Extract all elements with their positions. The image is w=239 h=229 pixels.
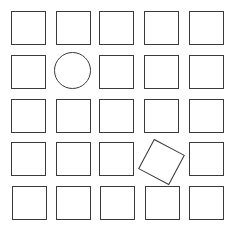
- shape-grid: [0, 0, 239, 229]
- square-shape: [11, 55, 46, 89]
- square-shape: [189, 99, 224, 133]
- square-shape: [99, 11, 134, 45]
- square-shape: [56, 142, 91, 176]
- square-shape: [11, 99, 46, 133]
- square-shape: [11, 142, 46, 176]
- square-shape: [56, 186, 91, 220]
- square-shape: [189, 186, 224, 220]
- circle-shape: [54, 52, 91, 89]
- square-shape: [99, 99, 134, 133]
- square-shape: [189, 11, 224, 45]
- square-shape: [99, 55, 134, 89]
- square-shape: [144, 11, 179, 45]
- square-shape: [189, 142, 224, 176]
- square-shape: [56, 99, 91, 133]
- square-shape: [99, 142, 134, 176]
- square-shape: [189, 55, 224, 89]
- square-shape: [11, 11, 46, 45]
- square-shape: [144, 99, 179, 133]
- square-shape: [100, 186, 135, 220]
- square-shape: [56, 11, 91, 45]
- square-shape: [145, 186, 180, 220]
- rotated-square-shape: [138, 139, 185, 185]
- square-shape: [12, 186, 47, 220]
- square-shape: [144, 55, 179, 89]
